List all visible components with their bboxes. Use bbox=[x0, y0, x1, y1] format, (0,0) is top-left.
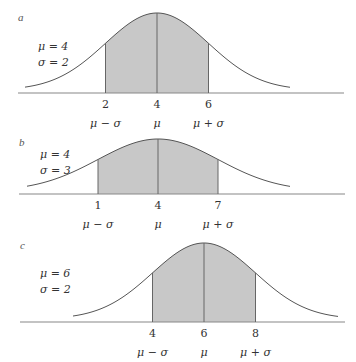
tick-symbol-label: μ − σ bbox=[83, 218, 114, 231]
tick-label: 1 bbox=[95, 199, 102, 212]
tick-label: 7 bbox=[215, 199, 222, 212]
tick-symbol-label: μ + σ bbox=[193, 117, 224, 130]
mu-param-label: μ = 4 bbox=[38, 40, 68, 53]
tick-symbol-label: μ bbox=[153, 117, 160, 130]
sigma-param-label: σ = 2 bbox=[38, 56, 69, 69]
sigma-param-label: σ = 3 bbox=[40, 164, 71, 177]
tick-label: 4 bbox=[155, 199, 162, 212]
mu-param-label: μ = 4 bbox=[40, 148, 70, 161]
sigma-param-label: σ = 2 bbox=[40, 283, 71, 296]
tick-label: 8 bbox=[252, 327, 259, 340]
tick-label: 4 bbox=[154, 98, 161, 111]
tick-label: 2 bbox=[102, 98, 109, 111]
tick-label: 6 bbox=[205, 98, 212, 111]
tick-symbol-label: μ − σ bbox=[137, 346, 168, 359]
tick-symbol-label: μ + σ bbox=[240, 346, 271, 359]
normal-distribution-figure: 2μ − σ4μ6μ + σaμ = 4σ = 21μ − σ4μ7μ + σb… bbox=[0, 0, 356, 362]
panel-c: 4μ − σ6μ8μ + σcμ = 6σ = 2 bbox=[20, 239, 345, 359]
tick-symbol-label: μ bbox=[200, 346, 207, 359]
panel-letter: a bbox=[18, 11, 24, 23]
tick-symbol-label: μ − σ bbox=[90, 117, 121, 130]
tick-label: 4 bbox=[149, 327, 156, 340]
panel-letter: b bbox=[19, 136, 25, 148]
panel-a: 2μ − σ4μ6μ + σaμ = 4σ = 2 bbox=[18, 11, 344, 130]
panel-letter: c bbox=[20, 239, 25, 251]
mu-param-label: μ = 6 bbox=[40, 267, 70, 280]
tick-symbol-label: μ + σ bbox=[203, 218, 234, 231]
tick-symbol-label: μ bbox=[154, 218, 161, 231]
panel-b: 1μ − σ4μ7μ + σbμ = 4σ = 3 bbox=[19, 136, 345, 231]
tick-label: 6 bbox=[201, 327, 208, 340]
